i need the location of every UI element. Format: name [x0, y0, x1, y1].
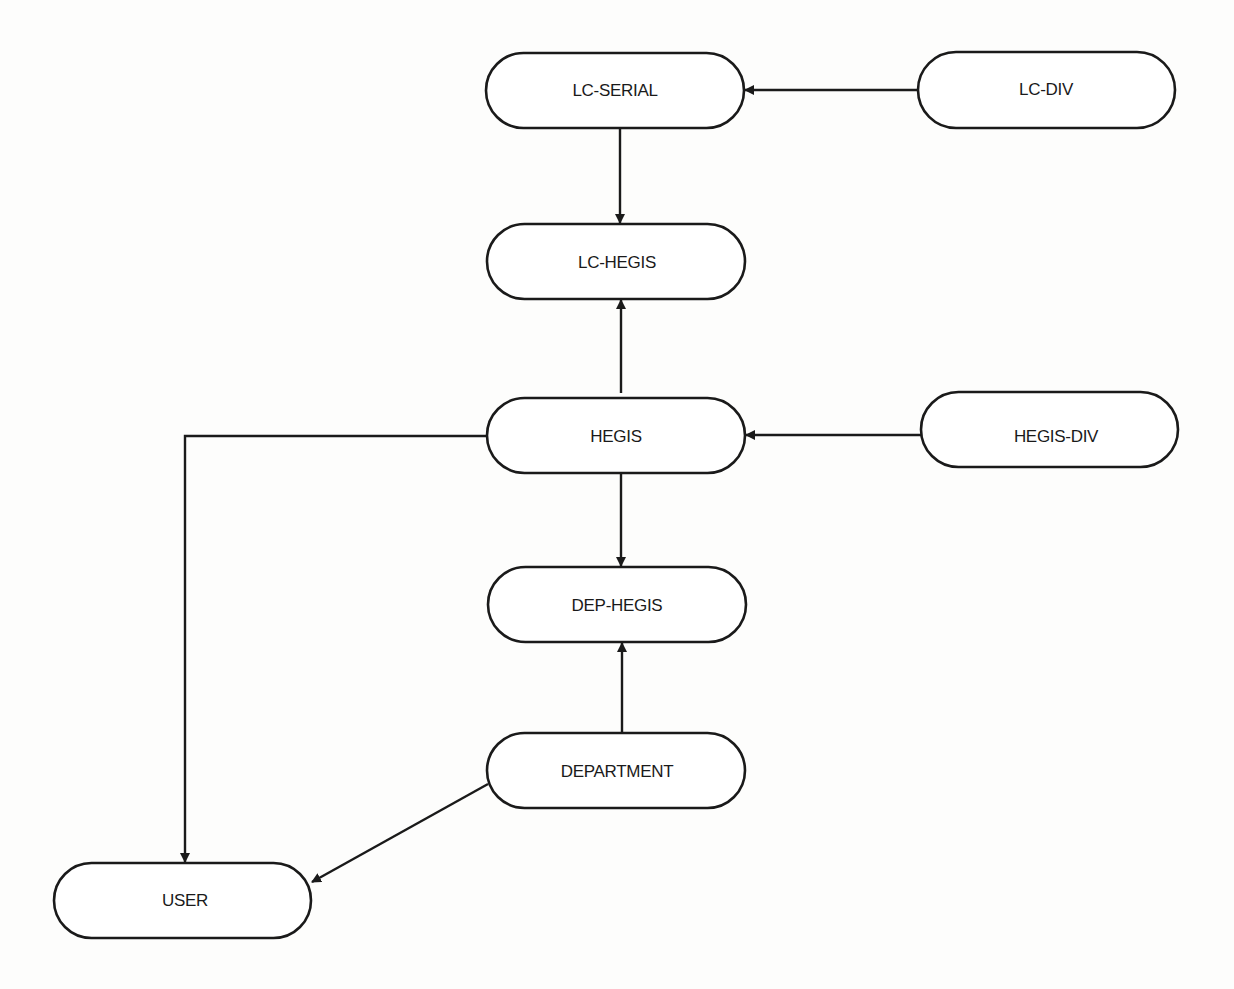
node-dep-hegis: DEP-HEGIS — [488, 567, 746, 642]
node-hegis: HEGIS — [487, 398, 745, 473]
node-lc-div: LC-DIV — [918, 52, 1175, 128]
node-hegis-div: HEGIS-DIV — [921, 392, 1178, 467]
node-hegis-label: HEGIS — [590, 427, 641, 446]
edge-hegis-to-user — [185, 436, 487, 862]
dependency-diagram: LC-SERIAL LC-DIV LC-HEGIS HEGIS HEGIS-DI… — [0, 0, 1234, 989]
node-lc-hegis: LC-HEGIS — [487, 224, 745, 299]
node-lc-hegis-label: LC-HEGIS — [578, 253, 656, 272]
nodes-layer: LC-SERIAL LC-DIV LC-HEGIS HEGIS HEGIS-DI… — [54, 52, 1178, 938]
node-user: USER — [54, 863, 311, 938]
node-department-label: DEPARTMENT — [561, 762, 674, 781]
node-dep-hegis-label: DEP-HEGIS — [572, 596, 663, 615]
node-lc-div-label: LC-DIV — [1019, 80, 1074, 99]
edge-department-to-user — [312, 784, 488, 882]
node-lc-serial-label: LC-SERIAL — [572, 81, 657, 100]
node-hegis-div-label: HEGIS-DIV — [1014, 427, 1099, 446]
node-department: DEPARTMENT — [487, 733, 745, 808]
node-lc-serial: LC-SERIAL — [486, 53, 744, 128]
node-user-label: USER — [162, 891, 208, 910]
